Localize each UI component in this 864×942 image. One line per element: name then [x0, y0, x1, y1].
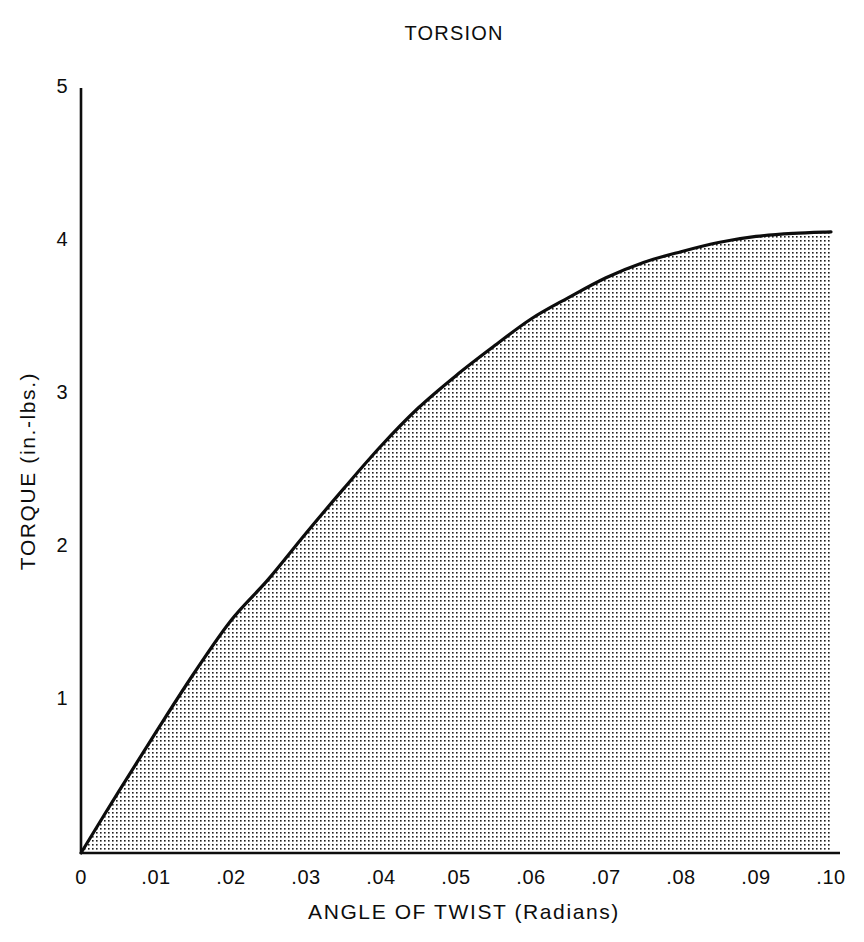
x-axis-title: ANGLE OF TWIST (Radians) — [0, 900, 864, 924]
x-tick-label: .01 — [126, 866, 186, 889]
x-tick-label: .02 — [201, 866, 261, 889]
plot-area — [0, 0, 864, 942]
x-tick-label: .08 — [651, 866, 711, 889]
y-tick-label: 1 — [28, 687, 68, 710]
y-tick-label: 4 — [28, 228, 68, 251]
x-tick-label: .10 — [801, 866, 861, 889]
x-tick-label: .09 — [726, 866, 786, 889]
x-tick-label: .03 — [276, 866, 336, 889]
x-axis-title-text: ANGLE OF TWIST (Radians) — [308, 900, 620, 924]
y-tick-label: 5 — [28, 75, 68, 98]
x-tick-label: .07 — [576, 866, 636, 889]
area-fill — [81, 232, 831, 853]
y-axis-title-text: TORQUE (in.-lbs.) — [16, 372, 40, 570]
x-tick-label: .05 — [426, 866, 486, 889]
x-tick-label: .06 — [501, 866, 561, 889]
x-tick-label: 0 — [51, 866, 111, 889]
torsion-chart-figure: TORSION 12345 0.01.02.03.04.05.06.07.08.… — [0, 0, 864, 942]
x-tick-label: .04 — [351, 866, 411, 889]
